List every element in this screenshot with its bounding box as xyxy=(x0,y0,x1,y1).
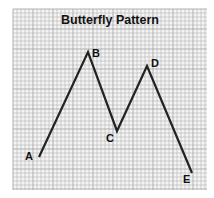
diagram-title: Butterfly Pattern xyxy=(61,13,159,27)
point-label-a: A xyxy=(25,150,33,162)
butterfly-pattern-diagram: Butterfly Pattern ABCDE xyxy=(0,0,214,198)
point-label-c: C xyxy=(106,132,114,144)
grid-background xyxy=(13,9,207,190)
point-label-d: D xyxy=(151,57,159,69)
point-label-e: E xyxy=(183,173,190,185)
point-label-b: B xyxy=(92,47,100,59)
